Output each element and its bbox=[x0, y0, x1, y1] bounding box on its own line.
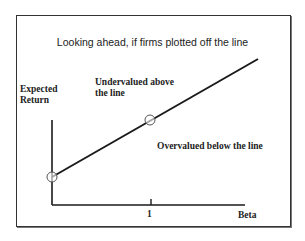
risk-free-point-circle bbox=[47, 172, 57, 182]
sml-chart bbox=[0, 0, 305, 241]
market-point-circle bbox=[145, 115, 155, 125]
